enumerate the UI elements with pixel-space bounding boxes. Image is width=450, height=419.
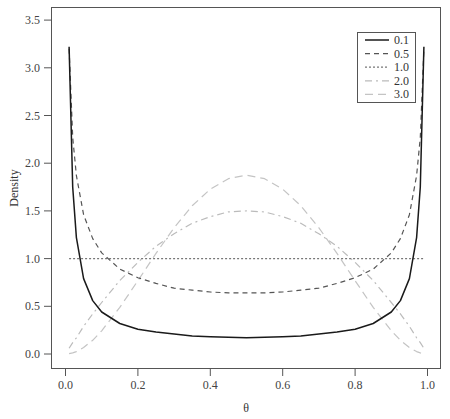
x-tick-label: 0.2 [130, 378, 145, 392]
legend-label: 2.0 [394, 74, 409, 88]
y-tick-label: 3.5 [25, 13, 40, 27]
y-tick-label: 0.0 [25, 347, 40, 361]
series-line-3-0 [69, 175, 424, 354]
x-tick-label: 0.4 [203, 378, 218, 392]
legend-label: 0.5 [394, 47, 409, 61]
x-axis-title: θ [243, 401, 249, 415]
y-tick-label: 1.5 [25, 204, 40, 218]
y-axis-title: Density [7, 169, 21, 206]
y-tick-label: 2.0 [25, 156, 40, 170]
y-tick-label: 2.5 [25, 109, 40, 123]
y-tick-label: 3.0 [25, 61, 40, 75]
x-axis: 0.00.20.40.60.81.0 [58, 369, 435, 393]
legend-label: 1.0 [394, 60, 409, 74]
x-tick-label: 1.0 [420, 378, 435, 392]
y-tick-label: 1.0 [25, 252, 40, 266]
x-tick-label: 0.0 [58, 378, 73, 392]
legend: 0.10.51.02.03.0 [358, 33, 416, 103]
y-axis: 0.00.51.01.52.02.53.03.5 [25, 13, 52, 361]
x-tick-label: 0.6 [275, 378, 290, 392]
x-tick-label: 0.8 [348, 378, 363, 392]
beta-density-chart: 0.00.51.01.52.02.53.03.5 0.00.20.40.60.8… [0, 0, 450, 419]
series-line-2-0 [69, 211, 424, 348]
legend-label: 3.0 [394, 87, 409, 101]
legend-label: 0.1 [394, 33, 409, 47]
y-tick-label: 0.5 [25, 299, 40, 313]
